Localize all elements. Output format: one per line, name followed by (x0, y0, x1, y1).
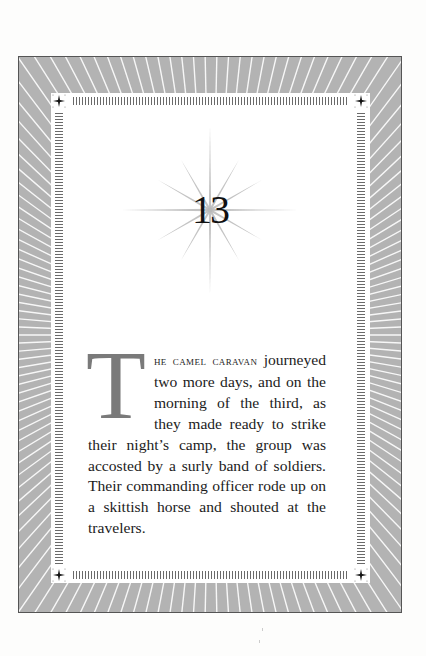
paper-speck (259, 640, 260, 643)
right-tick-border (357, 113, 365, 565)
left-tick-border (55, 113, 63, 565)
corner-star-icon (354, 568, 368, 582)
top-tick-border (73, 97, 348, 105)
corner-star-icon (354, 94, 368, 108)
bottom-tick-border (73, 571, 348, 579)
drop-cap: T (86, 346, 146, 418)
corner-star-icon (52, 568, 66, 582)
chapter-body: The camel caravan journeyed two more day… (88, 350, 326, 539)
paper-speck (262, 628, 263, 631)
corner-star-icon (52, 94, 66, 108)
book-page: 13 The camel caravan journeyed two more … (0, 0, 426, 656)
lead-in-smallcaps: he camel caravan (154, 353, 258, 368)
chapter-number: 13 (170, 182, 250, 238)
